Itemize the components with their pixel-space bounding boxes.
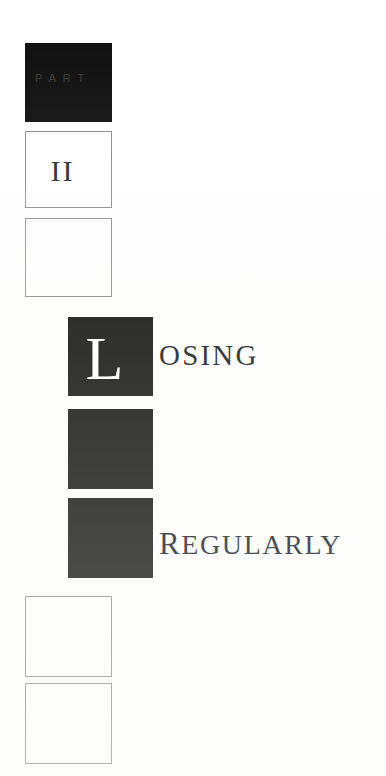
title-line-two: REGULARLY: [159, 528, 342, 559]
lower-plate: [68, 498, 153, 578]
dropcap-plate: L: [68, 317, 153, 396]
part-title-page: PART II L OSING REGULARLY: [0, 0, 386, 776]
title-dropcap: L: [62, 327, 147, 389]
part-plate: PART: [25, 43, 112, 122]
middle-plate: [68, 409, 153, 489]
spacer-plate-lower-2: [25, 683, 112, 764]
part-label: PART: [35, 73, 91, 84]
part-numeral: II: [20, 156, 105, 186]
spacer-plate-upper: [25, 218, 112, 297]
title-line-two-rest: EGULARLY: [181, 529, 342, 560]
numeral-plate: II: [25, 131, 112, 208]
title-line-one: OSING: [159, 341, 259, 370]
title-line-two-lead: R: [159, 526, 181, 561]
spacer-plate-lower-1: [25, 596, 112, 677]
